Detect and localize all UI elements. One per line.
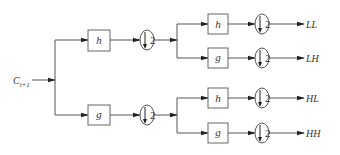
filter-box-g-level1: g — [88, 105, 110, 125]
svg-text:h: h — [215, 92, 221, 104]
downsample-bottom-level1: 2 — [140, 105, 156, 125]
downsample-HH: 2 — [255, 123, 271, 143]
downsample-LL: 2 — [255, 14, 271, 34]
svg-text:g: g — [215, 126, 221, 138]
svg-text:h: h — [96, 34, 102, 46]
output-label-HL: HL — [305, 93, 319, 104]
filter-box-h-HL: h — [208, 88, 228, 108]
output-label-LH: LH — [305, 53, 320, 64]
svg-text:g: g — [215, 51, 221, 63]
svg-text:Ci+1: Ci+1 — [13, 75, 30, 89]
svg-text:h: h — [215, 18, 221, 30]
filter-box-h-LL: h — [208, 14, 228, 34]
downsample-LH: 2 — [255, 48, 271, 68]
input-signal-label: Ci+1 — [13, 75, 30, 89]
downsample-top-level1: 2 — [140, 30, 156, 50]
output-label-HH: HH — [305, 128, 321, 139]
downsample-HL: 2 — [255, 88, 271, 108]
output-label-LL: LL — [305, 19, 318, 30]
filter-box-g-HH: g — [208, 123, 228, 143]
filter-box-h-level1: h — [88, 30, 110, 51]
wavelet-decomposition-diagram: Ci+1 h 2 g 2 h 2 — [0, 0, 340, 155]
svg-text:g: g — [96, 108, 102, 120]
filter-box-g-LH: g — [208, 48, 228, 68]
